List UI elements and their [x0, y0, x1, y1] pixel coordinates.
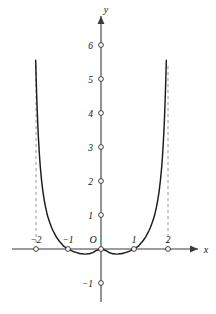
curve-right-branch	[101, 60, 166, 254]
y-tick-marker-5	[99, 77, 104, 82]
y-tick-marker-4	[99, 111, 104, 116]
x-tick-label-2: 2	[166, 235, 171, 245]
y-tick-label-4: 4	[88, 109, 93, 119]
x-tick-marker-2	[166, 247, 171, 252]
y-tick-label-1: 1	[88, 211, 93, 221]
plot-svg: 6 5 4 3 2 1 −1 −2 −1 1 2 O y x	[0, 0, 216, 314]
y-axis-label: y	[103, 4, 109, 15]
y-tick-label-5: 5	[88, 75, 93, 85]
x-tick-label-1: 1	[132, 235, 137, 245]
y-tick-label-6: 6	[88, 41, 93, 51]
y-tick-marker-neg1	[99, 281, 104, 286]
y-tick-marker-6	[99, 43, 104, 48]
x-axis-arrow-icon	[190, 246, 198, 253]
y-tick-marker-1	[99, 213, 104, 218]
y-tick-label-2: 2	[88, 177, 93, 187]
x-tick-label-neg1: −1	[62, 235, 73, 245]
y-tick-label-3: 3	[87, 143, 93, 153]
function-graph-figure: 6 5 4 3 2 1 −1 −2 −1 1 2 O y x	[0, 0, 216, 314]
x-tick-label-neg2: −2	[30, 235, 41, 245]
y-tick-label-neg1: −1	[82, 279, 93, 289]
x-tick-marker-neg1	[66, 247, 71, 252]
x-tick-marker-neg2	[34, 247, 39, 252]
origin-marker	[99, 247, 104, 252]
x-tick-marker-1	[132, 247, 137, 252]
y-tick-marker-2	[99, 179, 104, 184]
x-axis-label: x	[203, 244, 209, 255]
y-axis-arrow-icon	[98, 16, 105, 24]
y-tick-marker-3	[99, 145, 104, 150]
origin-label: O	[89, 234, 96, 245]
curve-left-branch	[36, 60, 101, 254]
